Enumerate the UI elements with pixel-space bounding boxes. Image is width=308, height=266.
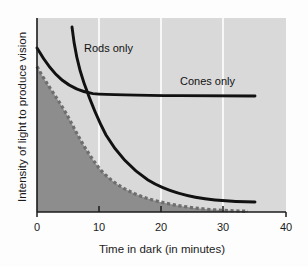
rods-only-label: Rods only — [84, 42, 133, 54]
x-axis-title: Time in dark (in minutes) — [99, 243, 225, 255]
chart-page: 0 10 20 30 40 Time in dark (in minutes) … — [0, 0, 308, 266]
xtick-label-40: 40 — [280, 221, 292, 233]
cones-only-label: Cones only — [180, 75, 236, 87]
xtick-label-30: 30 — [217, 221, 229, 233]
dark-adaptation-chart: 0 10 20 30 40 Time in dark (in minutes) … — [0, 0, 308, 266]
xtick-label-0: 0 — [34, 221, 40, 233]
xtick-label-10: 10 — [93, 221, 105, 233]
xtick-label-20: 20 — [155, 221, 167, 233]
y-axis-title: Intensity of light to produce vision — [16, 32, 28, 202]
